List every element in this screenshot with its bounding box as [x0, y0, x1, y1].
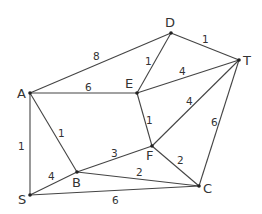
edge-weight-a-b: 1 — [58, 127, 65, 139]
edge-weight-f-c: 2 — [177, 154, 184, 166]
edge-weight-e-t: 4 — [179, 65, 186, 77]
edge-weight-b-c: 2 — [136, 166, 143, 178]
edges-layer — [30, 33, 239, 195]
edge-weight-s-c: 6 — [112, 194, 119, 206]
edge-weight-s-b: 4 — [48, 170, 55, 182]
edge-weight-a-d: 8 — [93, 50, 100, 62]
weighted-graph-diagram: 861111414632246 ADTEFBSC — [0, 0, 262, 214]
node-b-dot — [75, 170, 79, 174]
node-d-dot — [169, 31, 173, 35]
node-e-label: E — [125, 76, 133, 91]
edge-f-c — [152, 146, 199, 186]
node-s-dot — [28, 193, 32, 197]
edge-weight-t-c: 6 — [211, 116, 218, 128]
edge-weight-a-s: 1 — [18, 140, 25, 152]
edge-weight-d-t: 1 — [202, 33, 209, 45]
node-t-dot — [237, 58, 241, 62]
edge-weight-b-f: 3 — [111, 147, 118, 159]
node-c-dot — [197, 184, 201, 188]
edge-weight-a-e: 6 — [85, 81, 92, 93]
node-a-label: A — [17, 86, 26, 101]
node-a-dot — [28, 91, 32, 95]
node-d-label: D — [165, 15, 175, 30]
edge-f-t — [152, 60, 239, 146]
node-c-label: C — [203, 181, 212, 196]
edge-weight-f-t: 4 — [186, 95, 193, 107]
node-t-label: T — [242, 53, 251, 68]
edge-weight-e-f: 1 — [146, 114, 153, 126]
node-e-dot — [135, 91, 139, 95]
edge-a-b — [30, 93, 77, 172]
node-b-label: B — [72, 175, 81, 190]
node-s-label: S — [18, 192, 26, 207]
edge-weights-layer: 861111414632246 — [18, 33, 218, 206]
edge-weight-d-e: 1 — [145, 55, 152, 67]
edge-t-c — [199, 60, 239, 186]
node-f-label: F — [146, 148, 153, 163]
